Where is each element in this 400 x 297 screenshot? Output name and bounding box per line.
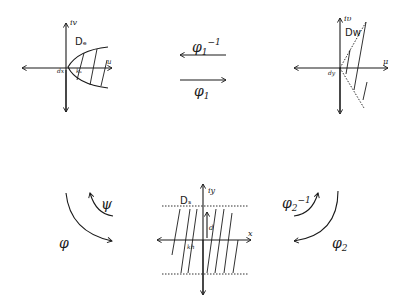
hatch-line: [233, 240, 238, 273]
hatch-line: [181, 209, 190, 273]
label-psi: ψ: [101, 196, 113, 212]
hatch-line: [224, 213, 232, 273]
hatch-line: [188, 209, 197, 273]
wedge-lower-edge: [340, 68, 364, 108]
inner-label: kh: [187, 243, 195, 250]
panel-top-left: iv Dₑ u dx kₛ: [22, 18, 112, 112]
region-label: Dₑ: [75, 36, 87, 47]
origin-label: dy: [328, 69, 336, 77]
label-phi: φ: [59, 235, 69, 251]
region-label: Dw: [345, 27, 361, 38]
inner-label: kₛ: [76, 67, 82, 74]
slit-line: [363, 82, 367, 100]
label-phi2-inverse: φ2−1: [282, 195, 311, 213]
label-phi1-inverse: φ1−1: [192, 37, 221, 57]
map-phi2-group: φ2 φ2−1: [282, 191, 348, 253]
vertical-axis-label: iυ: [344, 14, 352, 23]
hatch-line: [172, 209, 180, 255]
label-phi1: φ1: [194, 83, 210, 101]
vertical-axis-label: iv: [70, 18, 78, 27]
panel-bottom-center: Dₛ iy x d kh: [157, 184, 253, 295]
label-phi2: φ2: [332, 235, 348, 253]
horizontal-axis-label: x: [248, 229, 253, 238]
map-phi1-group: φ1−1 φ1: [180, 37, 226, 101]
vertical-axis-label: iy: [208, 186, 216, 195]
height-label: d: [209, 224, 214, 232]
hatch-line: [90, 49, 97, 85]
map-phi-psi-group: φ ψ: [59, 193, 113, 251]
hatch-line: [207, 209, 216, 273]
conformal-map-diagram: iv Dₑ u dx kₛ φ1−1 φ1 iυ Dw μ dy φ: [0, 0, 400, 297]
hatch-line: [215, 209, 224, 273]
panel-top-right: iυ Dw μ dy: [294, 14, 388, 114]
horizontal-axis-label: u: [107, 58, 112, 66]
horizontal-axis-label: μ: [383, 57, 388, 66]
origin-label: dx: [57, 67, 65, 74]
region-label: Dₛ: [180, 195, 192, 206]
